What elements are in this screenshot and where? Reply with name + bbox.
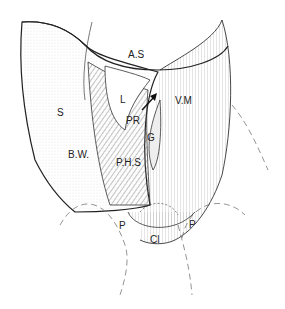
label-p-right: P xyxy=(189,220,196,230)
label-phs: P.H.S xyxy=(116,158,141,168)
label-as: A.S xyxy=(128,50,144,60)
label-s: S xyxy=(57,108,64,118)
anatomical-illustration xyxy=(0,0,285,309)
label-g: G xyxy=(147,133,155,143)
label-bw: B.W. xyxy=(68,150,89,160)
label-cl: Cl xyxy=(150,235,159,245)
label-vm: V.M xyxy=(175,96,192,106)
label-l: L xyxy=(120,95,126,105)
label-p-left: P xyxy=(119,221,126,231)
label-pr: PR xyxy=(126,116,140,126)
